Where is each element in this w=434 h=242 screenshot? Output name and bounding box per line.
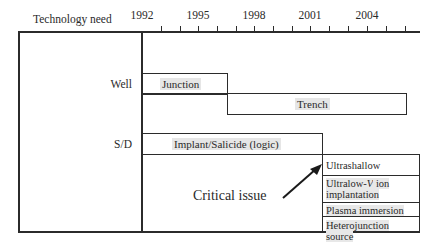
option-ultralow-v-ion-implantation: Ultralow-V ion implantation [322,175,420,203]
option-plasma-immersion: Plasma immersion [322,202,420,217]
bar-junction: Junction [142,73,228,95]
bar-trench: Trench [227,93,407,115]
row-label-sd: S/D [72,138,132,150]
bar-trench-label: Trench [295,98,330,110]
option-ultrashallow: Ultrashallow [322,154,420,176]
year-label-2001: 2001 [299,9,322,21]
year-label-1992: 1992 [131,9,154,21]
year-label-1998: 1998 [243,9,266,21]
year-label-1995: 1995 [187,9,210,21]
year-label-2004: 2004 [356,9,379,21]
row-label-well: Well [72,78,132,90]
well-connector-line [142,93,228,95]
critical-issue-label: Critical issue [193,188,267,204]
bar-junction-label: Junction [160,78,201,90]
bar-implant-salicide: Implant/Salicide (logic) [142,133,323,155]
arrow-icon [280,160,326,202]
option-heterojunction-source: Heterojunction source [322,216,420,233]
bar-implant-salicide-label: Implant/Salicide (logic) [172,138,281,150]
divider-1992-line [141,31,143,233]
column-header-technology-need: Technology need [33,13,112,25]
axis-top-line [18,31,420,33]
frame-left-line [18,31,20,233]
